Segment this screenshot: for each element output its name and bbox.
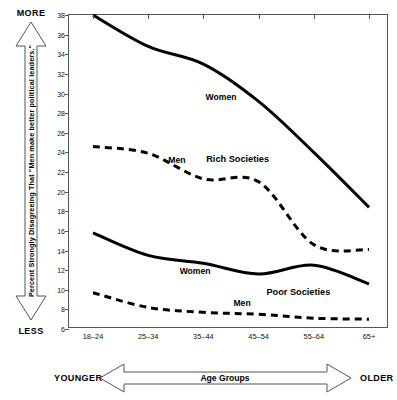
y-tick-label: 16 bbox=[57, 227, 65, 234]
series-canvas bbox=[69, 15, 389, 329]
x-axis-younger-label: YOUNGER bbox=[54, 373, 102, 383]
x-tick-label: 25–34 bbox=[138, 332, 159, 341]
y-tick-label: 36 bbox=[57, 31, 65, 38]
y-tick-label: 12 bbox=[57, 267, 65, 274]
y-tick-mark bbox=[65, 15, 69, 16]
y-tick-mark bbox=[65, 94, 69, 95]
y-tick-mark bbox=[65, 251, 69, 252]
y-tick-label: 14 bbox=[57, 247, 65, 254]
y-tick-mark bbox=[65, 309, 69, 310]
y-tick-mark bbox=[65, 152, 69, 153]
y-tick-label: 30 bbox=[57, 90, 65, 97]
y-tick-label: 26 bbox=[57, 129, 65, 136]
y-tick-mark bbox=[65, 192, 69, 193]
x-tick-mark bbox=[93, 15, 94, 19]
chart-figure: MORE Percent Strongly Disagreeing That "… bbox=[0, 0, 397, 400]
y-axis-caption: Percent Strongly Disagreeing That "Men m… bbox=[27, 45, 36, 297]
x-tick-label: 65+ bbox=[363, 332, 376, 341]
y-tick-mark bbox=[65, 54, 69, 55]
y-tick-label: 22 bbox=[57, 169, 65, 176]
y-tick-mark bbox=[65, 270, 69, 271]
y-tick-mark bbox=[65, 133, 69, 134]
y-tick-label: 32 bbox=[57, 70, 65, 77]
x-tick-mark bbox=[369, 15, 370, 19]
chart-annotation-women: Women bbox=[180, 266, 211, 276]
y-tick-label: 10 bbox=[57, 286, 65, 293]
y-tick-mark bbox=[65, 113, 69, 114]
y-tick-mark bbox=[65, 74, 69, 75]
chart-annotation-men: Men bbox=[168, 155, 185, 165]
x-tick-mark bbox=[148, 15, 149, 19]
x-tick-label: 35–44 bbox=[193, 332, 214, 341]
chart-annotation-rich-societies: Rich Societies bbox=[206, 154, 269, 164]
chart-annotation-poor-societies: Poor Societies bbox=[266, 287, 330, 297]
y-tick-label: 38 bbox=[57, 12, 65, 19]
y-axis-double-arrow: Percent Strongly Disagreeing That "Men m… bbox=[14, 20, 48, 322]
y-tick-label: 24 bbox=[57, 149, 65, 156]
x-axis-arrow-group: YOUNGER Age Groups OLDER bbox=[40, 356, 397, 400]
x-tick-mark bbox=[314, 15, 315, 19]
x-tick-label: 55–64 bbox=[304, 332, 325, 341]
y-tick-label: 34 bbox=[57, 51, 65, 58]
x-tick-mark bbox=[203, 15, 204, 19]
x-tick-mark bbox=[259, 15, 260, 19]
series-line-poor-societies-women bbox=[93, 233, 369, 284]
y-tick-mark bbox=[65, 290, 69, 291]
y-axis-arrow-group: MORE Percent Strongly Disagreeing That "… bbox=[0, 0, 62, 345]
y-axis-more-label: MORE bbox=[0, 8, 62, 18]
y-tick-mark bbox=[65, 329, 69, 330]
x-tick-label: 18–24 bbox=[83, 332, 104, 341]
y-tick-mark bbox=[65, 211, 69, 212]
y-tick-label: 28 bbox=[57, 110, 65, 117]
x-tick-label: 45–54 bbox=[248, 332, 269, 341]
chart-annotation-women: Women bbox=[206, 92, 237, 102]
y-tick-mark bbox=[65, 172, 69, 173]
y-tick-mark bbox=[65, 35, 69, 36]
y-axis-less-label: LESS bbox=[0, 326, 62, 336]
x-axis-older-label: OLDER bbox=[360, 373, 394, 383]
plot-area: 6810121416182022242628303234363818–2425–… bbox=[68, 14, 388, 328]
y-tick-label: 20 bbox=[57, 188, 65, 195]
y-tick-label: 18 bbox=[57, 208, 65, 215]
y-tick-mark bbox=[65, 231, 69, 232]
chart-annotation-men: Men bbox=[233, 298, 250, 308]
x-axis-caption: Age Groups bbox=[200, 373, 249, 383]
